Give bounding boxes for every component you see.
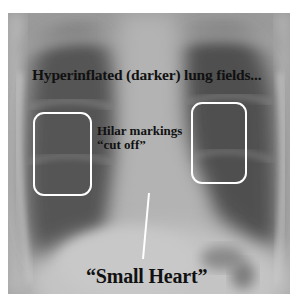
hilar-caption-line-1: Hilar markings bbox=[97, 124, 182, 138]
hyperinflated-lung-fields-caption: Hyperinflated (darker) lung fields... bbox=[32, 67, 261, 83]
right-hilar-annotation-box bbox=[33, 112, 92, 196]
xray-figure: Hyperinflated (darker) lung fields... Hi… bbox=[0, 0, 300, 303]
small-heart-caption: “Small Heart” bbox=[86, 266, 207, 286]
hilar-markings-caption: Hilar markings “cut off” bbox=[97, 124, 182, 152]
hilar-caption-line-2: “cut off” bbox=[97, 138, 182, 152]
left-hilar-annotation-box bbox=[191, 102, 247, 184]
